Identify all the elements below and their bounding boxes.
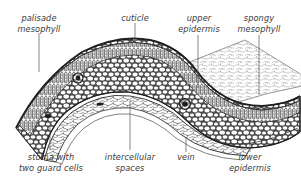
label-line: vein [172, 152, 200, 163]
label-line: stoma with [16, 152, 86, 163]
label-vein: vein [172, 152, 200, 163]
label-stoma: stoma with two guard cells [16, 152, 86, 173]
label-line: cuticle [117, 13, 153, 24]
label-line: two guard cells [16, 163, 86, 174]
label-line: lower [228, 152, 272, 163]
label-palisade-mesophyll: palisade mesophyll [16, 13, 62, 34]
label-line: epidermis [228, 163, 272, 174]
label-line: spongy [235, 13, 283, 24]
label-intercellular-spaces: intercellular spaces [102, 152, 158, 173]
label-line: upper [177, 13, 221, 24]
label-line: spaces [102, 163, 158, 174]
label-line: mesophyll [235, 24, 283, 35]
label-line: intercellular [102, 152, 158, 163]
label-upper-epidermis: upper epidermis [177, 13, 221, 34]
label-line: palisade [16, 13, 62, 24]
label-line: mesophyll [16, 24, 62, 35]
label-spongy-mesophyll: spongy mesophyll [235, 13, 283, 34]
label-line: epidermis [177, 24, 221, 35]
label-cuticle: cuticle [117, 13, 153, 24]
leaf-cross-section-diagram: palisade mesophyll cuticle upper epiderm… [0, 0, 301, 176]
label-lower-epidermis: lower epidermis [228, 152, 272, 173]
